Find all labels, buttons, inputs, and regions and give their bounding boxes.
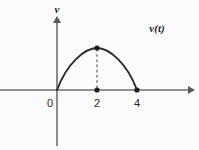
y-axis-arrowhead <box>53 16 61 23</box>
peak-point-marker <box>94 45 99 50</box>
y-axis-label: v <box>55 3 60 15</box>
tick-label-2: 2 <box>94 97 100 109</box>
tick-label-0: 0 <box>47 97 53 109</box>
x-axis-point-marker-4 <box>134 87 139 92</box>
function-label: v(t) <box>149 22 164 35</box>
graph-canvas: v v(t) 0 2 4 <box>0 0 199 150</box>
x-axis-point-marker-2 <box>94 87 99 92</box>
tick-label-4: 4 <box>134 97 140 109</box>
x-axis-arrowhead <box>188 86 195 94</box>
velocity-time-graph-figure: v v(t) 0 2 4 <box>0 0 199 150</box>
